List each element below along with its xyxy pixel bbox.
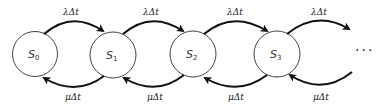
state-s3: S3 (254, 31, 300, 77)
forward-rate-label: λΔt (226, 7, 243, 17)
backward-rate-label: μΔt (65, 92, 81, 102)
state-s0: S0 (13, 32, 58, 77)
forward-arrow-0-1 (44, 21, 103, 34)
forward-rate-label: λΔt (310, 7, 327, 17)
backward-arrow-3-2 (205, 75, 267, 87)
state-s2: S2 (170, 31, 216, 77)
forward-rate-label: λΔt (62, 7, 79, 17)
backward-rate-label: μΔt (147, 92, 163, 102)
backward-arrow-2-1 (124, 75, 184, 87)
forward-arrow-1-2 (123, 21, 183, 34)
backward-arrow-next-3 (290, 72, 352, 85)
state-s1: S1 (90, 32, 136, 78)
continuation-ellipsis: ··· (355, 42, 374, 58)
state-transition-diagram: S0 S1 S2 S3 λΔt λΔt λΔt λΔt μΔt μΔt μΔt … (0, 0, 382, 107)
backward-arrow-1-0 (44, 76, 104, 87)
backward-rate-label: μΔt (228, 92, 244, 102)
forward-rate-label: λΔt (142, 7, 159, 17)
forward-arrow-3-next (287, 21, 349, 34)
backward-rate-label: μΔt (313, 92, 329, 102)
forward-arrow-2-3 (204, 21, 267, 34)
